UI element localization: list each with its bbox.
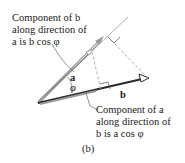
callout-bottom: Component of a along direction of b is a… (96, 104, 171, 140)
vector-b (38, 79, 142, 103)
perp-a-to-b (92, 52, 101, 90)
figure-caption: (b) (82, 143, 94, 155)
callout-top-line1: Component of b (12, 12, 80, 23)
callout-top: Component of b along direction of a is b… (12, 12, 87, 48)
callout-top-line3: a is b cos φ (12, 36, 87, 48)
callout-bottom-line1: Component of a (96, 104, 171, 116)
callout-bottom-line2: along direction of (96, 116, 171, 128)
angle-phi-label: φ (70, 82, 76, 94)
vector-b-label: b (120, 89, 126, 101)
right-angle-marker-top (108, 37, 120, 43)
callout-top-line2: along direction of (12, 24, 87, 36)
callout-bottom-line3: b is a cos φ (96, 128, 171, 140)
callout-top-leader (52, 44, 74, 72)
